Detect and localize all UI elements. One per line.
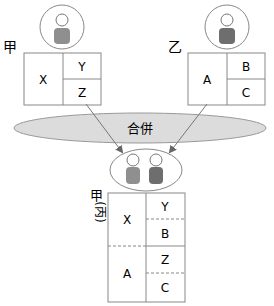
cell-c: C bbox=[242, 86, 250, 100]
party-b-label: 乙 bbox=[168, 39, 182, 55]
person-icon-party-a bbox=[40, 5, 84, 49]
merged-cell-x: X bbox=[123, 213, 131, 227]
cell-a: A bbox=[203, 73, 212, 87]
merged-cell-z: Z bbox=[161, 253, 169, 267]
merged-cell-b: B bbox=[161, 227, 169, 241]
merged-cell-y: Y bbox=[160, 200, 169, 214]
party-a-label: 甲 bbox=[3, 39, 17, 55]
merger-diagram: 甲 X Y Z 乙 A B C 合併 甲 (丙) bbox=[0, 0, 274, 306]
party-b-table: A B C bbox=[188, 53, 265, 105]
cell-y: Y bbox=[77, 60, 86, 74]
merged-cell-a: A bbox=[123, 267, 132, 281]
merger-label: 合併 bbox=[127, 121, 153, 136]
cell-x: X bbox=[39, 73, 47, 87]
person-icon-party-b bbox=[205, 5, 249, 49]
merged-cell-c: C bbox=[161, 281, 169, 295]
merged-label-paren: (丙) bbox=[93, 201, 107, 222]
cell-b: B bbox=[242, 60, 250, 74]
merged-table: X Y B A Z C bbox=[108, 193, 185, 302]
merged-persons-icon bbox=[110, 149, 182, 191]
cell-z: Z bbox=[78, 86, 86, 100]
party-a-table: X Y Z bbox=[24, 53, 101, 105]
